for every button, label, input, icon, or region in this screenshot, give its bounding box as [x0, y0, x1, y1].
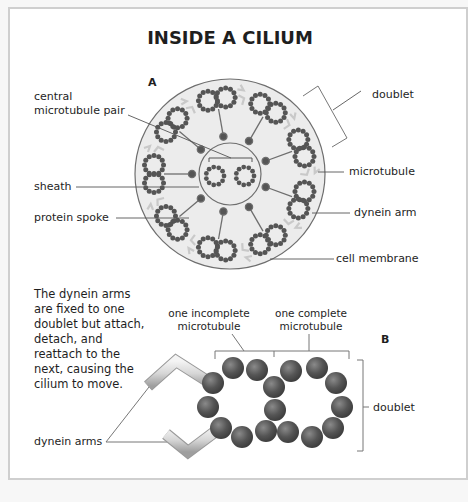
panel-a-label: A [148, 76, 157, 89]
doublet-tubulin-subunits [197, 357, 353, 448]
panel-b-caption: The dynein arms are fixed to one doublet… [33, 287, 145, 391]
complete-label-line2: microtubule [280, 320, 343, 332]
incomplete-label-line2: microtubule [178, 320, 241, 332]
svg-text:The dynein arms: The dynein arms [33, 287, 130, 301]
doublet-label-b: doublet [373, 401, 415, 414]
panel-b-label: B [381, 333, 389, 346]
sheath-label: sheath [34, 180, 72, 193]
complete-label-line1: one complete [275, 307, 347, 319]
dynein-arm-label: dynein arm [354, 206, 417, 219]
svg-text:are fixed to one: are fixed to one [34, 302, 125, 316]
central-pair-label-line1: central [34, 90, 72, 103]
svg-text:doublet but attach,: doublet but attach, [34, 317, 145, 331]
cilium-cross-section [135, 79, 347, 269]
cell-membrane-label: cell membrane [336, 252, 419, 265]
protein-spoke-label: protein spoke [34, 211, 109, 224]
microtubule-label: microtubule [349, 165, 415, 178]
svg-text:detach, and: detach, and [34, 332, 103, 346]
svg-text:cilium to move.: cilium to move. [34, 377, 123, 391]
svg-text:reattach to the: reattach to the [34, 347, 120, 361]
incomplete-label-line1: one incomplete [168, 307, 250, 319]
figure-title: INSIDE A CILIUM [147, 27, 313, 48]
dynein-arms-label: dynein arms [34, 435, 103, 448]
doublet-label-a: doublet [372, 88, 414, 101]
svg-text:next, causing the: next, causing the [34, 362, 134, 376]
central-pair-label-line2: microtubule pair [34, 104, 125, 117]
